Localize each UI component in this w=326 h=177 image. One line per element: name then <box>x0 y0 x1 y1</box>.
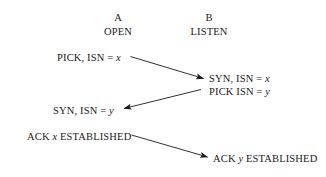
message-a-ack-x-prefix: ACK <box>27 131 52 142</box>
message-a-pick-isn-x-text: PICK, ISN = <box>57 52 116 63</box>
message-a-pick-isn-x: PICK, ISN = x <box>57 52 121 64</box>
message-b-ack-y-established: ACK y ESTABLISHED <box>213 153 317 165</box>
message-a-ack-x-suffix: ESTABLISHED <box>57 131 131 142</box>
message-a-syn-isn-y-text: SYN, ISN = <box>53 105 109 116</box>
message-b-ack-y-suffix: ESTABLISHED <box>243 153 317 164</box>
column-header-a-state: OPEN <box>98 26 138 38</box>
arrow-a-to-b-syn <box>131 57 204 79</box>
column-header-a-letter: A <box>98 12 138 24</box>
message-a-syn-isn-y: SYN, ISN = y <box>53 105 114 117</box>
arrow-b-to-a-synack <box>124 90 201 109</box>
column-header-b-state: LISTEN <box>188 26 230 38</box>
column-header-b-letter: B <box>188 12 230 24</box>
message-b-syn-isn-x-text: SYN, ISN = <box>209 73 265 84</box>
arrow-a-to-b-ack <box>132 135 208 157</box>
message-b-pick-isn-y-var: y <box>265 86 270 97</box>
message-b-syn-isn-x-var: x <box>265 73 270 84</box>
message-b-ack-y-prefix: ACK <box>213 153 238 164</box>
message-a-syn-isn-y-var: y <box>109 105 114 116</box>
arrow-layer <box>0 0 326 177</box>
message-a-ack-x-established: ACK x ESTABLISHED <box>27 131 131 143</box>
message-b-pick-isn-y: PICK ISN = y <box>209 86 270 98</box>
message-b-syn-isn-x: SYN, ISN = x <box>209 73 270 85</box>
sequence-diagram: A OPEN B LISTEN PICK, ISN = x SYN, ISN =… <box>0 0 326 177</box>
message-b-pick-isn-y-text: PICK ISN = <box>209 86 265 97</box>
message-a-pick-isn-x-var: x <box>116 52 121 63</box>
